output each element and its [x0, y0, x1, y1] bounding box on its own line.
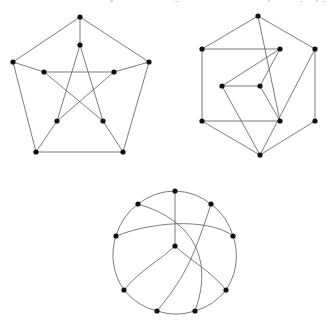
- graph-vertex-c0: [172, 188, 177, 193]
- graph-vertex-i2: [100, 118, 105, 123]
- graph-vertex-h3: [257, 152, 262, 157]
- graph-vertex-r0: [277, 46, 282, 51]
- graph-vertex-o2: [120, 149, 125, 154]
- graph-vertex-c3: [223, 287, 228, 292]
- graph-vertex-c6: [121, 287, 126, 292]
- graph-vertex-r3: [219, 83, 224, 88]
- graph-vertex-c8: [135, 201, 140, 206]
- graph-vertex-c5: [154, 308, 159, 313]
- graph-vertex-h2: [312, 118, 317, 123]
- graph-vertex-i4: [41, 69, 46, 74]
- graph-vertex-h4: [199, 118, 204, 123]
- graph-vertex-h0: [255, 13, 260, 18]
- graph-vertex-i3: [54, 118, 59, 123]
- graph-vertex-o0: [77, 14, 82, 19]
- graph-vertex-c4: [192, 308, 197, 313]
- graph-vertex-r2: [257, 83, 262, 88]
- graph-figure-canvas: [0, 0, 332, 326]
- graph-vertex-o1: [146, 59, 151, 64]
- graph-vertex-i0: [77, 42, 82, 47]
- graph-vertex-o4: [10, 59, 15, 64]
- graph-vertex-h1: [312, 46, 317, 51]
- graph-vertex-c1: [208, 201, 213, 206]
- graph-vertex-h5: [199, 46, 204, 51]
- graph-vertex-c2: [230, 233, 235, 238]
- graph-vertex-r1: [277, 118, 282, 123]
- graph-vertex-c7: [113, 233, 118, 238]
- graph-vertex-c9: [172, 243, 177, 248]
- graph-vertex-o3: [33, 149, 38, 154]
- graph-vertex-i1: [111, 69, 116, 74]
